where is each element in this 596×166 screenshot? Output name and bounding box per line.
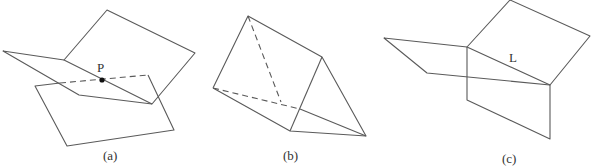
upper-plane-a <box>64 10 195 104</box>
hidden-edge-b2 <box>213 88 300 109</box>
front-edge-b <box>290 57 322 131</box>
point-p-label: P <box>97 60 104 75</box>
hidden-edge-b1 <box>248 16 281 102</box>
lower-plane-a <box>35 75 174 146</box>
figure-b: (b) <box>213 16 366 163</box>
figure-a: P (a) <box>3 10 195 163</box>
planes-diagram: P (a) (b) L (c) <box>0 0 596 166</box>
prism-outline-b <box>213 16 366 136</box>
caption-b: (b) <box>283 148 298 163</box>
caption-a: (a) <box>103 148 117 163</box>
figure-c: L (c) <box>384 0 590 166</box>
folded-plane-a <box>3 51 152 104</box>
point-p-marker <box>99 77 104 82</box>
caption-c: (c) <box>502 151 516 166</box>
line-l-label: L <box>509 50 517 65</box>
upper-plane-c <box>467 0 590 85</box>
